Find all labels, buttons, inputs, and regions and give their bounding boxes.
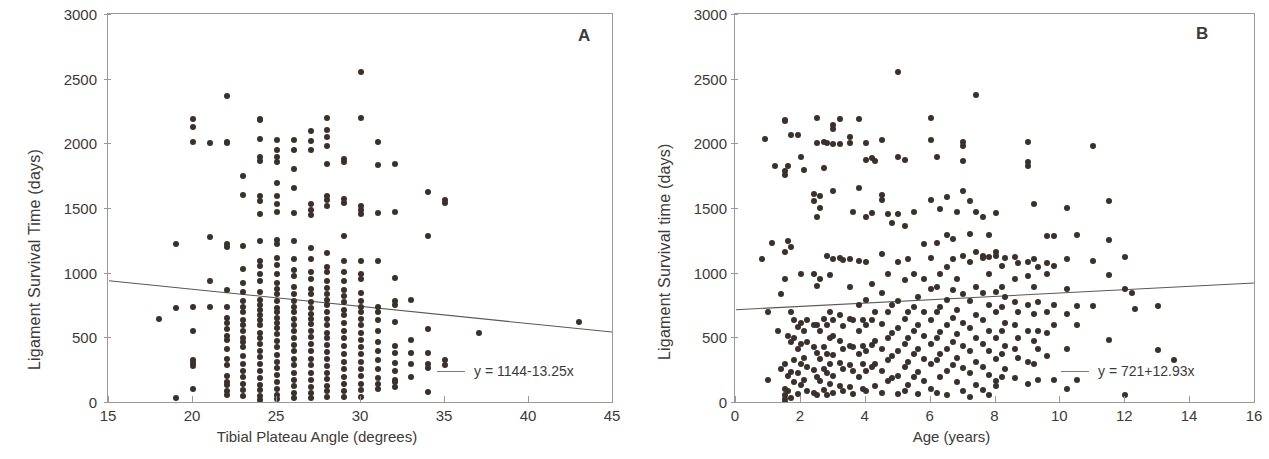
data-point (1064, 205, 1070, 211)
data-point (837, 338, 843, 344)
data-point (902, 277, 908, 283)
data-point (769, 240, 775, 246)
data-point (798, 154, 804, 160)
data-point (1035, 264, 1041, 270)
data-point (274, 352, 280, 358)
y-tick-label: 3000 (27, 6, 97, 23)
data-point (928, 255, 934, 261)
data-point (837, 312, 843, 318)
data-point (1051, 233, 1057, 239)
data-point (1035, 346, 1041, 352)
data-point (782, 249, 788, 255)
data-point (341, 394, 347, 400)
data-point (1025, 302, 1031, 308)
data-point (915, 346, 921, 352)
x-tick-label: 12 (1116, 407, 1133, 424)
data-point (944, 368, 950, 374)
data-point (993, 356, 999, 362)
data-point (224, 140, 230, 146)
x-tick-mark (1059, 396, 1060, 403)
y-tick-label: 2500 (27, 70, 97, 87)
data-point (291, 377, 297, 383)
y-tick-mark (731, 273, 738, 274)
data-point (801, 328, 807, 334)
data-point (801, 377, 807, 383)
x-tick-label: 6 (925, 407, 933, 424)
data-point (860, 361, 866, 367)
data-point (915, 369, 921, 375)
data-point (308, 328, 314, 334)
data-point (425, 326, 431, 332)
data-point (928, 197, 934, 203)
data-point (308, 212, 314, 218)
data-point (902, 223, 908, 229)
data-point (1035, 299, 1041, 305)
x-tick-mark (1189, 396, 1190, 403)
data-point (954, 379, 960, 385)
x-tick-label: 16 (1246, 407, 1263, 424)
data-point (1064, 346, 1070, 352)
data-point (798, 382, 804, 388)
y-tick-mark (731, 14, 738, 15)
data-point (291, 147, 297, 153)
data-point (291, 395, 297, 401)
data-point (821, 344, 827, 350)
data-point (863, 259, 869, 265)
data-point (856, 258, 862, 264)
data-point (798, 271, 804, 277)
data-point (986, 302, 992, 308)
data-point (960, 143, 966, 149)
data-point (341, 293, 347, 299)
data-point (782, 276, 788, 282)
panel-a-x-axis-label: Tibial Plateau Angle (degrees) (0, 428, 634, 445)
data-point (1064, 286, 1070, 292)
data-point (934, 240, 940, 246)
data-point (928, 386, 934, 392)
data-point (240, 328, 246, 334)
panel-a-plot-area (108, 14, 612, 402)
y-tick-mark (104, 14, 111, 15)
data-point (224, 356, 230, 362)
data-point (928, 317, 934, 323)
data-point (1025, 381, 1031, 387)
panel-b-plot-area (735, 14, 1254, 402)
data-point (999, 284, 1005, 290)
data-point (934, 390, 940, 396)
data-point (902, 341, 908, 347)
data-point (308, 276, 314, 282)
y-tick-label: 3000 (657, 6, 727, 23)
data-point (830, 390, 836, 396)
data-point (814, 350, 820, 356)
data-point (775, 328, 781, 334)
data-point (224, 304, 230, 310)
data-point (274, 325, 280, 331)
x-tick-mark (108, 396, 109, 403)
data-point (999, 351, 1005, 357)
x-tick-mark (1254, 396, 1255, 403)
data-point (274, 209, 280, 215)
data-point (392, 161, 398, 167)
x-tick-label: 14 (1181, 407, 1198, 424)
data-point (392, 360, 398, 366)
data-point (257, 289, 263, 295)
y-tick-mark (731, 208, 738, 209)
data-point (986, 271, 992, 277)
data-point (358, 359, 364, 365)
data-point (827, 272, 833, 278)
data-point (274, 359, 280, 365)
data-point (207, 140, 213, 146)
x-tick-mark (1124, 396, 1125, 403)
data-point (274, 396, 280, 402)
y-tick-label: 0 (27, 394, 97, 411)
data-point (1106, 272, 1112, 278)
data-point (782, 118, 788, 124)
panel-b-legend-line-swatch (1061, 371, 1089, 372)
data-point (954, 209, 960, 215)
data-point (980, 364, 986, 370)
data-point (308, 370, 314, 376)
data-point (847, 134, 853, 140)
data-point (375, 139, 381, 145)
data-point (986, 232, 992, 238)
x-tick-mark (444, 396, 445, 403)
data-point (902, 157, 908, 163)
